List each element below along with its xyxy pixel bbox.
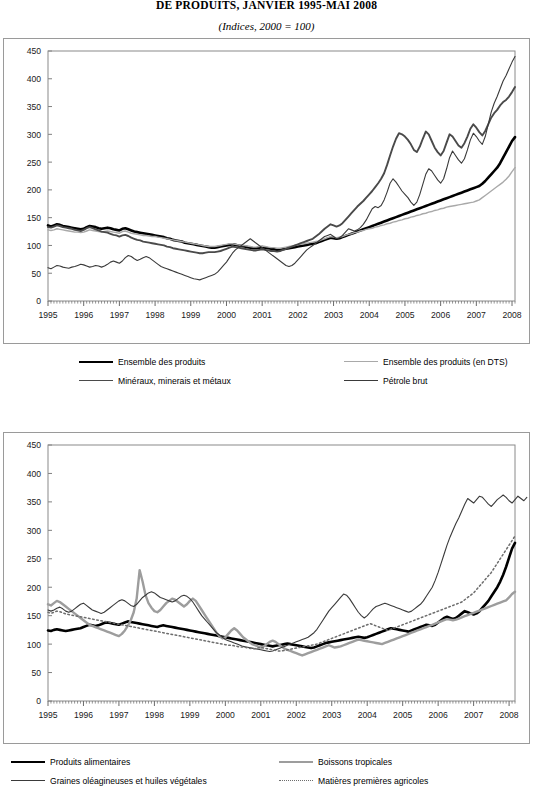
legend-swatch-line-icon bbox=[279, 761, 313, 763]
legend-swatch-line-icon bbox=[11, 780, 45, 781]
legend-swatch-line-icon bbox=[79, 361, 113, 363]
legend-item-ensemble-des-produits-dts: Ensemble des produits (en DTS) bbox=[344, 357, 508, 367]
legend-item-ensemble-des-produits: Ensemble des produits bbox=[79, 357, 344, 367]
y-axis-tick-label: 150 bbox=[27, 213, 42, 223]
legend-row: Minéraux, minerais et métaux Pétrole bru… bbox=[3, 371, 530, 390]
series-line bbox=[48, 87, 515, 253]
legend-label: Produits alimentaires bbox=[50, 757, 130, 767]
y-axis-tick-label: 250 bbox=[27, 158, 42, 168]
chart-panel-commodity-groups: 0501001502002503003504004501995199619971… bbox=[3, 38, 530, 344]
legend-item-graines-oleagineuses: Graines oléagineuses et huiles végétales bbox=[11, 776, 279, 786]
legend-item-petrole-brut: Pétrole brut bbox=[344, 376, 427, 386]
legend-row: Graines oléagineuses et huiles végétales… bbox=[3, 771, 530, 790]
x-axis-tick-label: 2002 bbox=[287, 710, 306, 720]
legend-panel-1: Ensemble des produits Ensemble des produ… bbox=[3, 344, 530, 394]
chart-panel-food-groups: 0501001502002503003504004501995199619971… bbox=[3, 432, 530, 744]
x-axis-tick-label: 2003 bbox=[324, 310, 343, 320]
x-axis-tick-label: 2000 bbox=[217, 310, 236, 320]
page-title: DE PRODUITS, JANVIER 1995-MAI 2008 bbox=[0, 0, 533, 11]
x-axis-tick-label: 2005 bbox=[395, 310, 414, 320]
legend-swatch-line-icon bbox=[344, 361, 378, 362]
series-line bbox=[48, 57, 515, 280]
y-axis-tick-label: 50 bbox=[31, 668, 41, 678]
legend-item-produits-alimentaires: Produits alimentaires bbox=[11, 757, 279, 767]
x-axis-tick-label: 1996 bbox=[74, 710, 93, 720]
legend-label: Boissons tropicales bbox=[318, 757, 392, 767]
chart-svg-2: 0501001502002503003504004501995199619971… bbox=[4, 433, 529, 743]
y-axis-tick-label: 450 bbox=[27, 46, 42, 56]
y-axis-tick-label: 0 bbox=[36, 296, 41, 306]
x-axis-tick-label: 2007 bbox=[467, 310, 486, 320]
y-axis-tick-label: 300 bbox=[27, 130, 42, 140]
y-axis-tick-label: 250 bbox=[27, 554, 42, 564]
y-axis-tick-label: 50 bbox=[31, 269, 41, 279]
chart-title-block: DE PRODUITS, JANVIER 1995-MAI 2008 (Indi… bbox=[0, 0, 533, 32]
legend-row: Ensemble des produits Ensemble des produ… bbox=[3, 352, 530, 371]
legend-row: Produits alimentaires Boissons tropicale… bbox=[3, 752, 530, 771]
x-axis-tick-label: 2001 bbox=[253, 310, 272, 320]
y-axis-tick-label: 400 bbox=[27, 74, 42, 84]
legend-label: Matières premières agricoles bbox=[318, 776, 428, 786]
x-axis-tick-label: 2007 bbox=[464, 710, 483, 720]
x-axis-tick-label: 1996 bbox=[74, 310, 93, 320]
y-axis-tick-label: 350 bbox=[27, 497, 42, 507]
legend-swatch-line-icon bbox=[11, 761, 45, 763]
x-axis-tick-label: 1999 bbox=[180, 710, 199, 720]
y-axis-tick-label: 200 bbox=[27, 185, 42, 195]
legend-label: Minéraux, minerais et métaux bbox=[118, 376, 231, 386]
x-axis-tick-label: 2002 bbox=[288, 310, 307, 320]
x-axis-tick-label: 1995 bbox=[38, 710, 57, 720]
y-axis-tick-label: 0 bbox=[36, 696, 41, 706]
y-axis-tick-label: 100 bbox=[27, 241, 42, 251]
legend-swatch-line-icon bbox=[79, 380, 113, 381]
legend-label: Graines oléagineuses et huiles végétales bbox=[50, 776, 207, 786]
legend-item-matieres-premieres-agricoles: Matières premières agricoles bbox=[279, 776, 428, 786]
legend-panel-2: Produits alimentaires Boissons tropicale… bbox=[3, 744, 530, 794]
x-axis-tick-label: 2004 bbox=[358, 710, 377, 720]
x-axis-tick-label: 2005 bbox=[393, 710, 412, 720]
legend-label: Pétrole brut bbox=[383, 376, 427, 386]
x-axis-tick-label: 2000 bbox=[216, 710, 235, 720]
legend-swatch-line-icon bbox=[279, 780, 313, 781]
x-axis-tick-label: 2008 bbox=[502, 310, 521, 320]
y-axis-tick-label: 150 bbox=[27, 611, 42, 621]
series-line bbox=[48, 495, 527, 651]
x-axis-tick-label: 1995 bbox=[38, 310, 57, 320]
x-axis-tick-label: 1998 bbox=[145, 710, 164, 720]
page-subtitle: (Indices, 2000 = 100) bbox=[0, 20, 533, 32]
legend-label: Ensemble des produits bbox=[118, 357, 205, 367]
y-axis-tick-label: 350 bbox=[27, 102, 42, 112]
y-axis-tick-label: 200 bbox=[27, 583, 42, 593]
series-line bbox=[48, 543, 515, 648]
y-axis-tick-label: 450 bbox=[27, 440, 42, 450]
x-axis-tick-label: 1998 bbox=[146, 310, 165, 320]
x-axis-tick-label: 2006 bbox=[429, 710, 448, 720]
y-axis-tick-label: 100 bbox=[27, 640, 42, 650]
x-axis-tick-label: 1999 bbox=[181, 310, 200, 320]
x-axis-tick-label: 2006 bbox=[431, 310, 450, 320]
x-axis-tick-label: 2003 bbox=[322, 710, 341, 720]
chart-svg-1: 0501001502002503003504004501995199619971… bbox=[4, 39, 529, 343]
y-axis-tick-label: 300 bbox=[27, 526, 42, 536]
y-axis-tick-label: 400 bbox=[27, 469, 42, 479]
x-axis-tick-label: 2004 bbox=[360, 310, 379, 320]
x-axis-tick-label: 1997 bbox=[109, 710, 128, 720]
x-axis-tick-label: 1997 bbox=[110, 310, 129, 320]
x-axis-tick-label: 2001 bbox=[251, 710, 270, 720]
legend-swatch-line-icon bbox=[344, 380, 378, 381]
x-axis-tick-label: 2008 bbox=[500, 710, 519, 720]
legend-item-boissons-tropicales: Boissons tropicales bbox=[279, 757, 392, 767]
series-line bbox=[48, 570, 515, 655]
legend-item-mineraux-minerais-metaux: Minéraux, minerais et métaux bbox=[79, 376, 344, 386]
legend-label: Ensemble des produits (en DTS) bbox=[383, 357, 508, 367]
